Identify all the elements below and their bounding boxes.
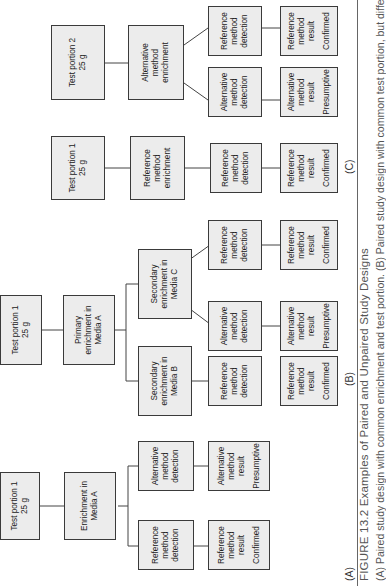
panel-c-ref-detection-1: Reference method detection xyxy=(210,143,262,193)
box-text: detection xyxy=(240,75,250,108)
box-text: detection xyxy=(240,364,250,397)
box-text: result xyxy=(307,82,317,102)
result-status: Presumptive xyxy=(322,69,332,115)
box-text: enrichment xyxy=(163,148,173,189)
box-text: Reference xyxy=(220,226,230,264)
panel-b-ref-result-1: Reference method result Confirmed xyxy=(280,356,338,406)
panel-a-alt-result: Alternative method result Presumptive xyxy=(208,441,270,491)
box-text: Enrichment in xyxy=(80,481,90,531)
box-text: method xyxy=(230,17,240,44)
panel-b-primary-enrichment: Primary enrichment in Media A xyxy=(63,295,115,365)
box-text: Reference xyxy=(220,12,230,50)
panel-c-test-portion-2: Test portion 2 25 g xyxy=(51,25,105,100)
result-status: Confirmed xyxy=(322,12,332,50)
figure-caption-body: (A) Paired study design with common enri… xyxy=(374,0,386,581)
box-text: result xyxy=(307,371,317,391)
box-text: detection xyxy=(240,228,250,261)
box-text: Media A xyxy=(94,315,104,345)
box-text: Reference xyxy=(221,149,231,187)
box-text: method xyxy=(151,49,161,76)
panel-b-test-portion: Test portion 1 25 g xyxy=(0,295,42,365)
panel-b-ref-result-2: Reference method result Confirmed xyxy=(280,220,338,270)
box-text: Secondary xyxy=(150,264,160,303)
box-text: result xyxy=(307,235,317,255)
box-text: enrichment in xyxy=(160,356,170,405)
box-text: method xyxy=(230,367,240,394)
figure-number: FIGURE 13.2 xyxy=(358,510,370,581)
box-text: Test portion 1 xyxy=(11,305,21,354)
box-text: result xyxy=(307,21,317,41)
panel-b-ref-detection-2: Reference method detection xyxy=(208,220,262,270)
result-status: Confirmed xyxy=(322,226,332,264)
figure-title: Examples of Paired and Unpaired Study De… xyxy=(358,248,370,506)
box-text: Alternative xyxy=(287,307,297,346)
box-text: Reference xyxy=(217,526,227,564)
result-status: Confirmed xyxy=(322,149,332,187)
box-text: method xyxy=(161,531,171,558)
box-text: Test portion 2 xyxy=(68,38,78,87)
box-text: Alternative xyxy=(141,43,151,82)
box-text: Reference xyxy=(151,526,161,564)
panel-b-secondary-media-b: Secondary enrichment in Media B xyxy=(138,346,192,416)
panel-a-alt-detection: Alternative method detection xyxy=(138,441,194,491)
box-text: method xyxy=(231,154,241,181)
box-text: Reference xyxy=(220,362,230,400)
panel-c-alt-detection: Alternative method detection xyxy=(208,67,262,117)
box-text: Reference xyxy=(287,12,297,50)
box-text: detection xyxy=(171,449,181,482)
panel-c-test-portion-1: Test portion 1 25 g xyxy=(51,136,105,200)
panel-c-alt-result: Alternative method result Presumptive xyxy=(280,67,338,117)
box-text: 25 g xyxy=(20,498,30,514)
result-status: Confirmed xyxy=(252,526,262,564)
panel-b-alt-result: Alternative method result Presumptive xyxy=(280,301,338,351)
panel-a-test-portion: Test portion 1 25 g xyxy=(0,472,40,540)
panel-b-ref-detection-1: Reference method detection xyxy=(208,356,262,406)
box-text: method xyxy=(297,154,307,181)
box-text: method xyxy=(297,17,307,44)
box-text: Reference xyxy=(287,362,297,400)
box-text: 25 g xyxy=(78,55,88,71)
panel-c-label: (C) xyxy=(343,159,355,174)
box-text: Alternative xyxy=(151,447,161,486)
box-text: enrichment in xyxy=(84,305,94,354)
box-text: result xyxy=(307,158,317,178)
box-text: Media A xyxy=(90,491,100,521)
box-text: Reference xyxy=(143,149,153,187)
panel-c-ref-detection-2: Reference method detection xyxy=(208,6,262,56)
box-text: method xyxy=(297,231,307,258)
box-text: method xyxy=(230,78,240,105)
panel-c-ref-result-1: Reference method result Confirmed xyxy=(280,143,338,193)
box-text: method xyxy=(230,312,240,339)
box-text: Media B xyxy=(170,366,180,396)
box-text: result xyxy=(237,456,247,476)
box-text: 25 g xyxy=(78,160,88,176)
box-text: detection xyxy=(240,309,250,342)
panel-a-label: (A) xyxy=(343,567,355,581)
box-text: Alternative xyxy=(217,447,227,486)
box-text: Secondary xyxy=(150,361,160,400)
box-text: method xyxy=(230,231,240,258)
panel-a-ref-detection: Reference method detection xyxy=(138,520,194,570)
panel-b-secondary-media-c: Secondary enrichment in Media C xyxy=(138,249,192,319)
figure-caption-title: FIGURE 13.2 Examples of Paired and Unpai… xyxy=(358,248,370,581)
box-text: method xyxy=(161,452,171,479)
box-text: method xyxy=(227,452,237,479)
panel-a-ref-result: Reference method result Confirmed xyxy=(208,520,270,570)
box-text: detection xyxy=(240,14,250,47)
result-status: Confirmed xyxy=(322,362,332,400)
panel-c-ref-result-2: Reference method result Confirmed xyxy=(280,6,338,56)
box-text: Media C xyxy=(170,269,180,300)
box-text: Primary xyxy=(74,316,84,344)
panel-b-alt-detection: Alternative method detection xyxy=(208,301,262,351)
box-text: method xyxy=(297,78,307,105)
panel-c-alt-enrichment: Alternative method enrichment xyxy=(128,25,184,100)
box-text: method xyxy=(297,367,307,394)
box-text: detection xyxy=(241,151,251,184)
box-text: detection xyxy=(171,528,181,561)
box-text: result xyxy=(237,535,247,555)
box-text: enrichment in xyxy=(160,259,170,308)
box-text: result xyxy=(307,316,317,336)
box-text: Alternative xyxy=(220,73,230,112)
result-status: Presumptive xyxy=(252,443,262,489)
box-text: Alternative xyxy=(220,307,230,346)
